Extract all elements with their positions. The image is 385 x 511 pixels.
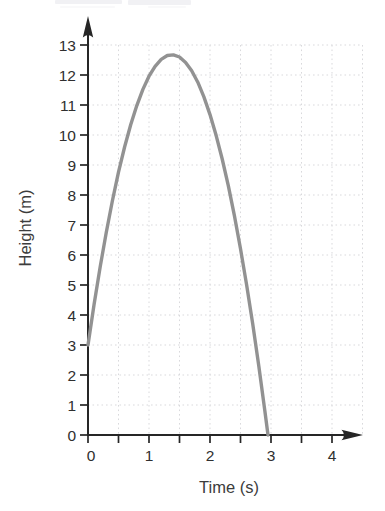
y-tick-label: 12	[59, 67, 76, 84]
y-tick-label: 2	[67, 367, 76, 384]
x-tick-label: 2	[206, 447, 215, 464]
projectile-height-time-chart: 01234012345678910111213Time (s)Height (m…	[0, 0, 385, 511]
tick-labels: 01234012345678910111213	[59, 37, 337, 465]
x-tick-label: 3	[267, 447, 276, 464]
x-axis-title: Time (s)	[199, 478, 259, 496]
scan-artifact-smudge	[128, 0, 191, 5]
x-tick-label: 1	[145, 447, 154, 464]
y-tick-label: 13	[59, 37, 76, 54]
x-tick-label: 0	[87, 447, 96, 464]
y-tick-label: 10	[59, 127, 77, 144]
y-tick-label: 0	[67, 427, 76, 444]
y-tick-label: 11	[60, 97, 76, 114]
y-tick-label: 6	[67, 247, 76, 264]
scan-artifact-smudge	[55, 0, 122, 4]
y-axis-title: Height (m)	[16, 189, 34, 266]
scan-artifact-smudge	[148, 6, 186, 8]
scan-artifact	[0, 0, 385, 10]
y-tick-label: 9	[67, 157, 76, 174]
y-tick-label: 7	[67, 217, 76, 234]
y-tick-label: 4	[67, 307, 76, 324]
scan-artifact-smudge	[60, 6, 115, 8]
height-curve	[88, 55, 268, 435]
grid	[88, 45, 363, 435]
x-axis-arrowhead-icon	[342, 430, 364, 440]
axes	[83, 16, 363, 440]
y-tick-label: 3	[67, 337, 76, 354]
y-tick-label: 1	[67, 397, 76, 414]
y-axis-arrowhead-icon	[83, 16, 93, 38]
y-tick-label: 5	[67, 277, 76, 294]
y-tick-label: 8	[67, 187, 76, 204]
chart-canvas: 01234012345678910111213Time (s)Height (m…	[0, 0, 385, 511]
x-tick-label: 4	[328, 447, 337, 464]
